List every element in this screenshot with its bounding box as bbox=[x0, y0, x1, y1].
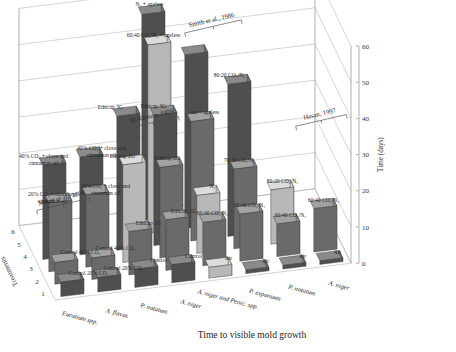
depth-axis-tick-label: 2 bbox=[35, 278, 39, 286]
bar-value-label: Ethicap 2G bbox=[110, 153, 135, 159]
bar-value-label-line2: cinnamon oil bbox=[91, 190, 121, 196]
bar-front-face bbox=[240, 211, 263, 261]
value-axis-tick-label: 60 bbox=[362, 43, 370, 51]
value-axis-tick-label: 10 bbox=[362, 224, 370, 232]
bar bbox=[236, 204, 263, 261]
bar-front-face bbox=[314, 206, 337, 252]
bar-value-label: Air bbox=[225, 255, 233, 261]
value-axis-tick-label: 30 bbox=[362, 151, 370, 159]
bar-value-label: 40% CO₂ + clove and bbox=[77, 145, 126, 151]
depth-axis-tick-label: 1 bbox=[41, 290, 45, 298]
bar-value-label: Ethicap 2G bbox=[155, 155, 180, 161]
bar-value-label: Air bbox=[299, 253, 307, 259]
value-axis-tick-label: 0 bbox=[362, 260, 366, 268]
bar-value-label: Ethicap 1G bbox=[136, 220, 161, 226]
bar-value-label: Control 40% CO₂ bbox=[61, 249, 101, 255]
bar bbox=[310, 198, 337, 252]
bar-value-label: Control 20% CO₂ bbox=[69, 270, 109, 276]
bar-value-label: 60:40 CO₂/N₂ bbox=[234, 202, 265, 208]
bar-value-label: 80:20 CO₂/N₂ bbox=[214, 72, 245, 78]
bar-value-label: 60:40 CO₂/N₂ bbox=[308, 197, 339, 203]
bar-value-label: Air bbox=[334, 249, 342, 255]
bar-value-label: N₂ + ageless bbox=[135, 1, 163, 7]
bar-value-label: Air + ageless bbox=[190, 109, 220, 115]
bar-value-label: Control bbox=[185, 253, 203, 259]
value-axis-tick-label: 20 bbox=[362, 187, 370, 195]
bar-value-label: N₂ bbox=[210, 183, 216, 189]
bar-value-label: Air bbox=[262, 258, 270, 264]
bar-value-label: 60:40 CO₂/N₂ bbox=[275, 212, 306, 218]
bar bbox=[131, 259, 158, 287]
depth-axis-tick-label: 6 bbox=[11, 228, 15, 236]
bar-value-label: 60:40 CO₂/N₂ + ageless bbox=[127, 32, 181, 38]
bar-value-label: 60:40 CO₂/N₂ bbox=[197, 210, 228, 216]
bar bbox=[273, 214, 300, 257]
value-axis-tick-label: 40 bbox=[362, 115, 370, 123]
bar-value-label: 80:20 CO₂/N₂ bbox=[267, 178, 298, 184]
bar-value-label: Control bbox=[150, 257, 168, 263]
bar-value-label: Ethicap 3G bbox=[98, 104, 123, 110]
chart-3d-bar: Control 20% CO₂Control 40% CO₂20% CO₂ + … bbox=[0, 0, 456, 352]
bar-front-face bbox=[61, 279, 84, 296]
bar-front-face bbox=[98, 275, 121, 292]
depth-axis-tick-label: 3 bbox=[29, 265, 33, 273]
bar-value-label: Control 20% CO₂ bbox=[104, 265, 144, 271]
depth-axis-tick-label: 4 bbox=[23, 253, 27, 261]
chart-canvas: Control 20% CO₂Control 40% CO₂20% CO₂ + … bbox=[0, 0, 456, 352]
bar-value-label: 20% CO₂ + clove and bbox=[81, 183, 130, 189]
bar-value-label: 40% CO₂ + clove and bbox=[19, 153, 68, 159]
bar-value-label: Ethicap 1G bbox=[171, 208, 196, 214]
bar-front-face bbox=[172, 262, 195, 283]
bar-value-label-line2: cinnamon oil bbox=[29, 160, 59, 166]
chart-title: Time to visible mold growth bbox=[198, 330, 307, 340]
bar bbox=[168, 255, 195, 283]
bar-value-label: Control 40% CO₂ bbox=[96, 245, 136, 251]
bar-value-label: Ethicap 3G bbox=[141, 103, 166, 109]
bar-front-face bbox=[277, 221, 300, 256]
value-axis-tick-label: 50 bbox=[362, 79, 370, 87]
value-axis-title: Time (days) bbox=[377, 137, 385, 172]
depth-axis-tick-label: 5 bbox=[17, 241, 21, 249]
bar-value-label: 70:30 CO₂/N₂ bbox=[224, 157, 255, 163]
